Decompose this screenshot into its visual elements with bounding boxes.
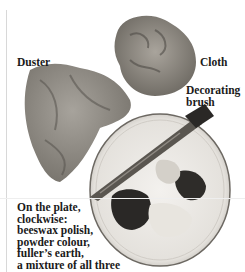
brush-label: Decorating brush <box>186 84 240 108</box>
scan-line <box>0 198 245 199</box>
cloth-image <box>115 16 197 96</box>
plate-caption: On the plate, clockwise: beeswax polish,… <box>17 202 120 272</box>
duster-label: Duster <box>17 56 50 68</box>
caption-line: On the plate, <box>17 202 120 214</box>
caption-line: a mixture of all three <box>17 260 120 272</box>
brush-label-line1: Decorating <box>186 84 240 96</box>
brush-label-line2: brush <box>186 96 240 108</box>
cloth-label: Cloth <box>200 56 227 68</box>
